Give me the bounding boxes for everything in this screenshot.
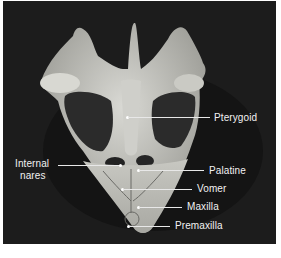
internal-nares-label-line1: Internal (15, 158, 49, 169)
pterygoid-label: Pterygoid (214, 112, 257, 123)
maxilla-leader-line (139, 207, 182, 208)
premaxilla-leader-line (129, 226, 170, 227)
palatine-label: Palatine (209, 165, 246, 176)
vomer-label: Vomer (197, 183, 226, 194)
maxilla-label: Maxilla (187, 201, 219, 212)
premaxilla-label: Premaxilla (175, 220, 223, 231)
pterygoid-leader-line (128, 117, 210, 118)
skull-photograph: Pterygoid Internal nares Palatine Vomer … (3, 1, 276, 244)
internal-nares-label-line2: nares (20, 170, 46, 181)
internal-nares-pointer-dot (119, 164, 122, 167)
internal-nares-leader-line (58, 165, 120, 166)
vomer-leader-line (123, 189, 192, 190)
palatine-leader-line (139, 170, 204, 171)
